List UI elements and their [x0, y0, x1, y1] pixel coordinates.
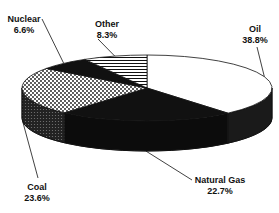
slice-value: 38.8% — [220, 35, 279, 46]
slice-value: 8.3% — [72, 30, 142, 41]
slice-name: Other — [72, 19, 142, 30]
slice-label-nuclear: Nuclear6.6% — [0, 14, 59, 36]
slice-value: 22.7% — [185, 186, 255, 197]
slice-label-other: Other8.3% — [72, 19, 142, 41]
slice-label-coal: Coal23.6% — [2, 182, 72, 204]
slice-value: 23.6% — [2, 193, 72, 204]
slice-name: Oil — [220, 24, 279, 35]
slice-name: Coal — [2, 182, 72, 193]
slice-label-natural-gas: Natural Gas22.7% — [185, 175, 255, 197]
leader-line-other — [98, 39, 115, 56]
leader-line-oil — [257, 47, 264, 77]
slice-value: 6.6% — [0, 25, 59, 36]
slice-label-oil: Oil38.8% — [220, 24, 279, 46]
slice-name: Natural Gas — [185, 175, 255, 186]
slice-name: Nuclear — [0, 14, 59, 25]
